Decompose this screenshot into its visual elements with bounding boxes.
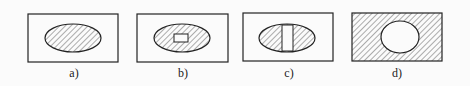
figure-b-label: b) [178, 66, 188, 81]
figure-c-label: c) [284, 66, 293, 81]
figure-b [137, 14, 228, 62]
figure-a [28, 14, 118, 62]
figure-c [243, 13, 333, 61]
figure-d-label: d) [392, 66, 402, 81]
figure-d [352, 13, 442, 61]
figure-a-label: a) [69, 66, 78, 81]
